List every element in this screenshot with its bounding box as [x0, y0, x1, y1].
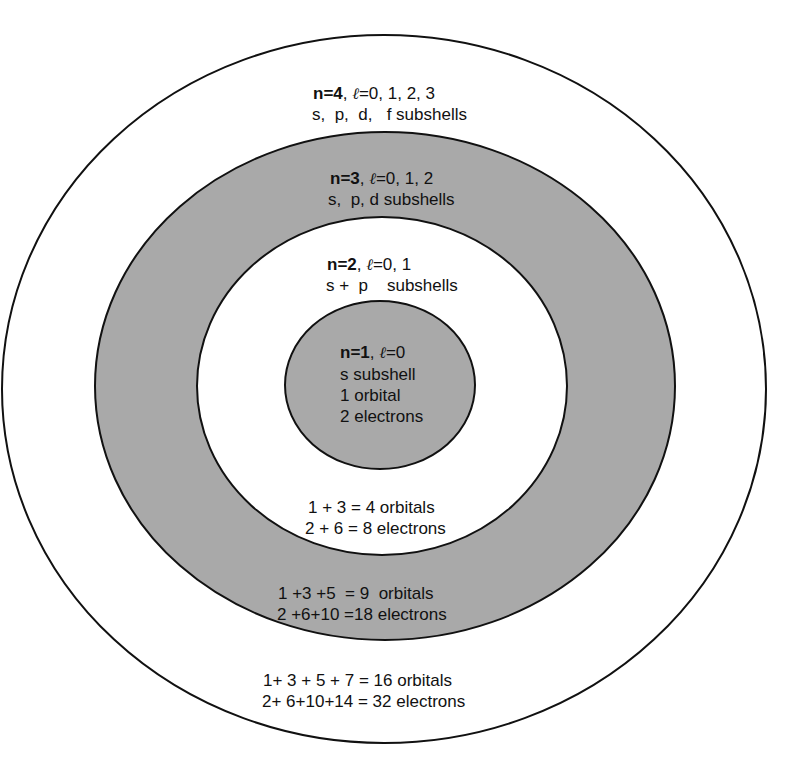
- shell-n1-orbitals: 1 orbital: [340, 385, 400, 406]
- n3-value: n=3: [330, 169, 360, 188]
- ell-symbol: ℓ: [379, 343, 386, 362]
- n4-value: n=4: [313, 84, 343, 103]
- shell-n3-subshells: s, p, d subshells: [328, 189, 455, 210]
- shell-n3-electrons: 2 +6+10 =18 electrons: [277, 604, 447, 625]
- shell-n2-electrons: 2 + 6 = 8 electrons: [305, 518, 446, 539]
- shell-n3-orbitals-text: 1 +3 +5 = 9 orbitals: [278, 583, 433, 604]
- shell-n4-orbitals: 1+ 3 + 5 + 7 = 16 orbitals: [263, 670, 452, 691]
- separator: ,: [357, 255, 366, 274]
- separator: ,: [343, 84, 352, 103]
- n2-value: n=2: [327, 255, 357, 274]
- shell-n4-quantum-label: n=4, ℓ=0, 1, 2, 3: [313, 83, 435, 104]
- n2-l-values: =0, 1: [373, 255, 411, 274]
- ell-symbol: ℓ: [369, 169, 376, 188]
- shell-n2-orbitals: 1 + 3 = 4 orbitals: [308, 497, 435, 518]
- n3-l-values: =0, 1, 2: [376, 169, 433, 188]
- separator: ,: [360, 169, 369, 188]
- shell-n1-electrons: 2 electrons: [340, 406, 423, 427]
- shell-n2-quantum-label: n=2, ℓ=0, 1: [327, 254, 411, 275]
- shell-n2-subshells: s + p subshells: [326, 275, 458, 296]
- n1-l-values: =0: [386, 343, 405, 362]
- separator: ,: [370, 343, 379, 362]
- shell-n1-quantum-label: n=1, ℓ=0: [340, 342, 405, 363]
- shell-n4-electrons: 2+ 6+10+14 = 32 electrons: [262, 691, 465, 712]
- n1-value: n=1: [340, 343, 370, 362]
- shell-n1-subshells: s subshell: [340, 364, 416, 385]
- ell-symbol: ℓ: [366, 255, 373, 274]
- shell-n3-quantum-label: n=3, ℓ=0, 1, 2: [330, 168, 433, 189]
- n4-l-values: =0, 1, 2, 3: [359, 84, 435, 103]
- ell-symbol: ℓ: [352, 84, 359, 103]
- shell-n4-subshells: s, p, d, f subshells: [312, 104, 467, 125]
